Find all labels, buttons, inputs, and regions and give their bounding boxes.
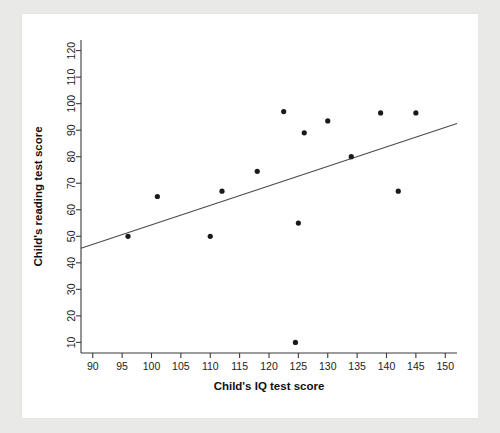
data-point	[396, 189, 401, 194]
x-tick-label: 125	[290, 360, 308, 372]
data-point	[349, 154, 354, 159]
x-tick-label: 115	[231, 360, 248, 372]
x-tick-label: 95	[116, 360, 128, 372]
y-tick-label: 10	[65, 336, 77, 348]
x-tick-label: 90	[87, 360, 99, 372]
x-tick-label: 130	[319, 360, 337, 372]
y-tick-label: 30	[65, 283, 77, 295]
x-tick-label: 105	[172, 360, 190, 372]
chart-background	[22, 14, 478, 418]
y-tick-label: 100	[65, 95, 77, 113]
y-tick-label: 20	[65, 310, 77, 322]
y-tick-label: 90	[65, 124, 77, 136]
x-tick-label: 110	[202, 360, 219, 372]
x-tick-label: 135	[348, 360, 366, 372]
chart-svg: 9095100105110115120125130135140145150 10…	[22, 14, 478, 418]
data-point	[293, 340, 298, 345]
data-point	[208, 234, 213, 239]
x-tick-label: 145	[407, 360, 425, 372]
data-point	[255, 169, 260, 174]
data-point	[325, 118, 330, 123]
y-tick-label: 110	[65, 69, 77, 86]
y-tick-label: 50	[65, 230, 77, 242]
y-tick-label: 80	[65, 151, 77, 163]
data-point	[378, 110, 383, 115]
y-tick-label: 120	[65, 42, 77, 60]
y-axis-title: Child's reading test score	[32, 126, 44, 266]
data-point	[281, 109, 286, 114]
y-tick-label: 60	[65, 204, 77, 216]
data-point	[155, 194, 160, 199]
x-tick-label: 100	[143, 360, 161, 372]
scatter-chart: 9095100105110115120125130135140145150 10…	[22, 14, 478, 418]
x-tick-label: 150	[436, 360, 454, 372]
data-point	[413, 110, 418, 115]
data-point	[125, 234, 130, 239]
y-tick-label: 70	[65, 177, 77, 189]
data-point	[296, 220, 301, 225]
data-point	[219, 189, 224, 194]
y-tick-label: 40	[65, 257, 77, 269]
x-axis-title: Child's IQ test score	[214, 380, 325, 392]
x-tick-label: 120	[260, 360, 278, 372]
figure-frame: 9095100105110115120125130135140145150 10…	[22, 14, 478, 418]
data-point	[302, 130, 307, 135]
x-tick-label: 140	[378, 360, 396, 372]
